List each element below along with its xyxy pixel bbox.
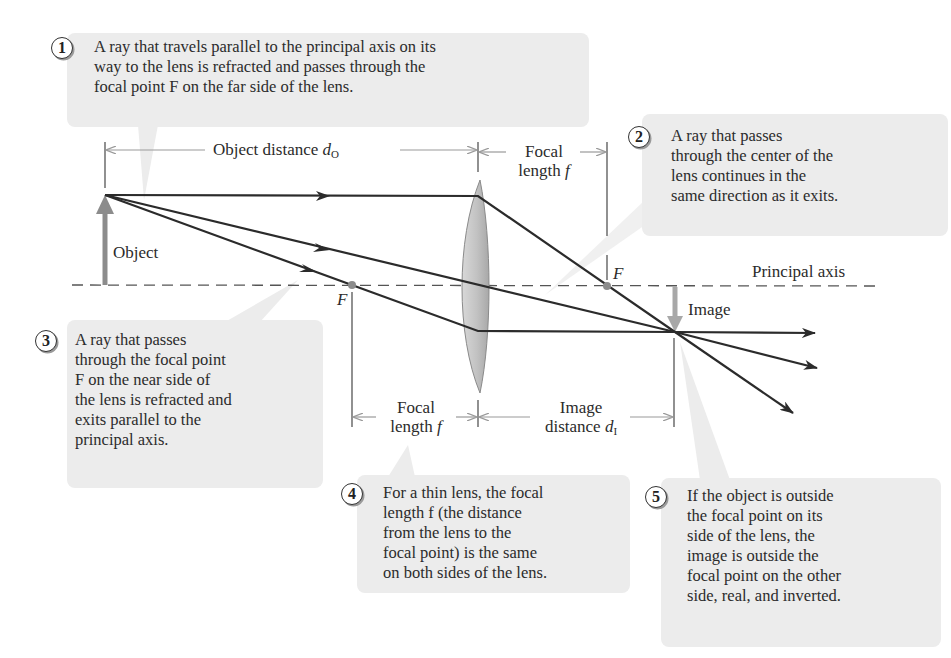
- image-distance-label: Image distance dI: [532, 398, 630, 441]
- focal-point-left-marker: [348, 281, 356, 289]
- thin-lens-ray-diagram: 1 A ray that travels parallel to the pri…: [0, 0, 951, 658]
- ray-center: [105, 195, 675, 332]
- principal-axis-label: Principal axis: [752, 262, 845, 281]
- image-label: Image: [688, 300, 730, 319]
- ray-parallel-exit: [675, 332, 793, 413]
- object-distance-label: Object distance dO: [210, 140, 342, 164]
- focal-point-right-marker: [603, 282, 611, 290]
- ray-center-exit: [675, 332, 817, 368]
- focal-point-left-label: F: [337, 290, 347, 309]
- focal-length-bottom-label: Focal length f: [377, 398, 455, 436]
- object-label: Object: [113, 243, 158, 262]
- optics-drawing: [0, 0, 951, 658]
- ray-focal-direction-icon: [299, 264, 317, 272]
- focal-length-top-label: Focal length f: [508, 142, 580, 180]
- ray-focal-exit: [675, 332, 815, 333]
- focal-point-right-label: F: [613, 264, 623, 283]
